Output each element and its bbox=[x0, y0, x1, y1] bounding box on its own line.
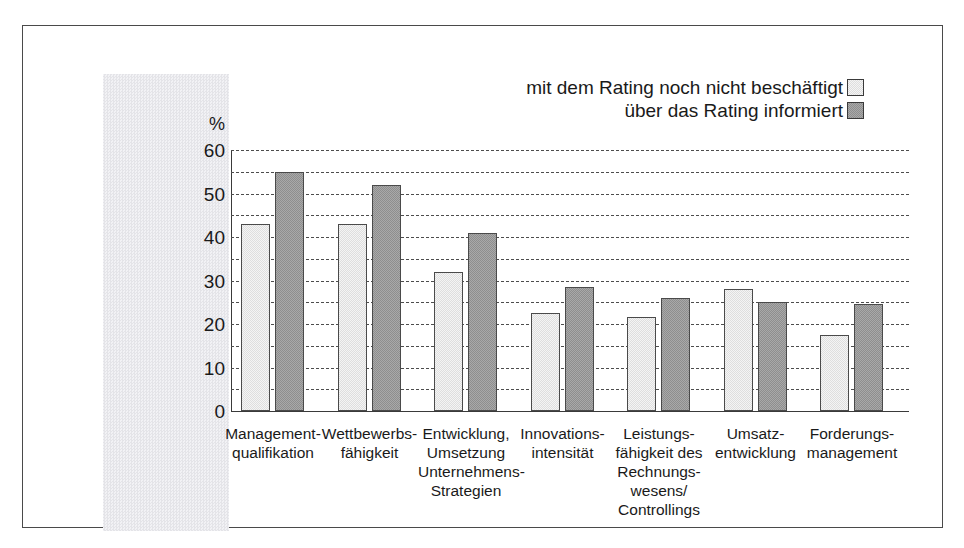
category-label-line: Umsatz- bbox=[708, 424, 804, 443]
plot-area bbox=[231, 150, 909, 411]
category-label: Entwicklung,UmsetzungUnternehmens-Strate… bbox=[418, 424, 514, 500]
category-label-line: Entwicklung, bbox=[418, 424, 514, 443]
x-axis-line bbox=[231, 411, 909, 412]
bar-dark bbox=[758, 302, 787, 411]
bar-dark bbox=[372, 185, 401, 411]
category-label: Forderungs-management bbox=[804, 424, 900, 462]
category-label-line: qualifikation bbox=[225, 443, 321, 462]
category-label-line: Management- bbox=[225, 424, 321, 443]
category-label: Umsatz-entwicklung bbox=[708, 424, 804, 462]
bar-dark bbox=[854, 304, 883, 411]
category-label-line: entwicklung bbox=[708, 443, 804, 462]
category-label: Leistungs-fähigkeit desRechnungs-wesens/… bbox=[611, 424, 707, 519]
bar-group bbox=[434, 150, 504, 411]
category-label-line: Umsetzung bbox=[418, 443, 514, 462]
y-tick-label: 60 bbox=[179, 141, 225, 160]
bar-light bbox=[627, 317, 656, 411]
y-tick-label: 40 bbox=[179, 228, 225, 247]
chart-legend: mit dem Rating noch nicht beschäftigt üb… bbox=[526, 78, 864, 124]
bar-light bbox=[531, 313, 560, 411]
bar-light bbox=[434, 272, 463, 411]
bar-dark bbox=[468, 233, 497, 411]
y-tick-label: 20 bbox=[179, 315, 225, 334]
category-label-line: Strategien bbox=[418, 481, 514, 500]
chart-frame: mit dem Rating noch nicht beschäftigt üb… bbox=[22, 25, 943, 528]
legend-label-0: mit dem Rating noch nicht beschäftigt bbox=[526, 78, 843, 97]
category-label-line: Unternehmens- bbox=[418, 462, 514, 481]
legend-entry-0: mit dem Rating noch nicht beschäftigt bbox=[526, 78, 864, 97]
bar-light bbox=[241, 224, 270, 411]
y-tick-label: 50 bbox=[179, 184, 225, 203]
category-label-line: Leistungs- bbox=[611, 424, 707, 443]
bar-group bbox=[531, 150, 601, 411]
bar-group bbox=[627, 150, 697, 411]
legend-entry-1: über das Rating informiert bbox=[526, 101, 864, 120]
x-axis-category-labels: Management-qualifikationWettbewerbs-fähi… bbox=[231, 424, 931, 534]
category-label: Wettbewerbs-fähigkeit bbox=[322, 424, 418, 462]
bar-dark bbox=[275, 172, 304, 411]
chart-screenshot: mit dem Rating noch nicht beschäftigt üb… bbox=[0, 0, 964, 548]
category-label: Innovations-intensität bbox=[515, 424, 611, 462]
bar-dark bbox=[565, 287, 594, 411]
category-label-line: Controllings bbox=[611, 500, 707, 519]
y-tick-label: 0 bbox=[179, 402, 225, 421]
bar-group bbox=[820, 150, 890, 411]
category-label-line: fähigkeit bbox=[322, 443, 418, 462]
bar-group bbox=[338, 150, 408, 411]
bar-dark bbox=[661, 298, 690, 411]
category-label: Management-qualifikation bbox=[225, 424, 321, 462]
y-tick-label: 10 bbox=[179, 358, 225, 377]
y-axis-unit-label: % bbox=[173, 114, 225, 135]
category-label-line: intensität bbox=[515, 443, 611, 462]
category-label-line: Wettbewerbs- bbox=[322, 424, 418, 443]
y-axis-tick-labels: 6050403020100 bbox=[173, 150, 225, 411]
dark-swatch-icon bbox=[847, 102, 864, 119]
y-tick-label: 30 bbox=[179, 271, 225, 290]
category-label-line: wesens/ bbox=[611, 481, 707, 500]
bar-light bbox=[338, 224, 367, 411]
category-label-line: Forderungs- bbox=[804, 424, 900, 443]
category-label-line: Rechnungs- bbox=[611, 462, 707, 481]
category-label-line: management bbox=[804, 443, 900, 462]
bar-light bbox=[820, 335, 849, 411]
bar-group bbox=[724, 150, 794, 411]
category-label-line: Innovations- bbox=[515, 424, 611, 443]
category-label-line: fähigkeit des bbox=[611, 443, 707, 462]
legend-label-1: über das Rating informiert bbox=[624, 101, 843, 120]
bar-light bbox=[724, 289, 753, 411]
bar-group bbox=[241, 150, 311, 411]
light-swatch-icon bbox=[847, 79, 864, 96]
